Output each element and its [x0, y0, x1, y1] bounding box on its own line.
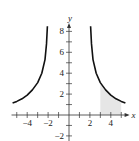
curve-branch: [13, 26, 48, 103]
y-tick-label: 4: [60, 68, 65, 78]
y-tick-label: −2: [54, 131, 64, 141]
x-tick-label: −2: [43, 118, 53, 128]
y-axis-label: y: [67, 13, 72, 23]
x-axis-arrow-icon: [125, 113, 130, 117]
y-tick-label: 8: [60, 26, 65, 36]
x-tick-label: 4: [109, 118, 114, 128]
x-tick-label: −4: [22, 118, 32, 128]
y-tick-label: 2: [60, 89, 65, 99]
function-graph: −4−2248642−2 x y: [0, 0, 139, 141]
x-axis-label: x: [131, 110, 136, 120]
curve-branch: [91, 26, 126, 103]
x-tick-label: 2: [88, 118, 93, 128]
y-tick-label: 6: [60, 47, 65, 57]
y-axis-arrow-icon: [67, 23, 71, 28]
